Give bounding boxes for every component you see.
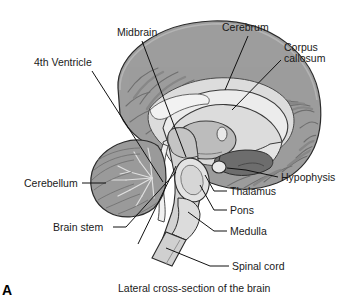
- label-midbrain: Midbrain: [117, 27, 157, 39]
- label-cerebrum: Cerebrum: [222, 22, 269, 34]
- brain-anatomy-figure: Midbrain Cerebrum Corpus callosum 4th Ve…: [0, 0, 357, 305]
- figure-caption: Lateral cross-section of the brain: [118, 282, 270, 294]
- cerebellum-structure: [91, 140, 166, 217]
- panel-letter: A: [2, 282, 12, 298]
- label-pons: Pons: [230, 205, 254, 217]
- label-brain-stem: Brain stem: [53, 222, 103, 234]
- label-fourth-ventricle: 4th Ventricle: [34, 57, 92, 69]
- label-hypophysis: Hypophysis: [281, 172, 335, 184]
- label-cerebellum: Cerebellum: [24, 178, 78, 190]
- label-medulla: Medulla: [230, 226, 267, 238]
- label-spinal-cord: Spinal cord: [232, 261, 285, 273]
- label-thalamus: Thalamus: [230, 186, 276, 198]
- label-corpus-callosum-line2: callosum: [284, 53, 325, 65]
